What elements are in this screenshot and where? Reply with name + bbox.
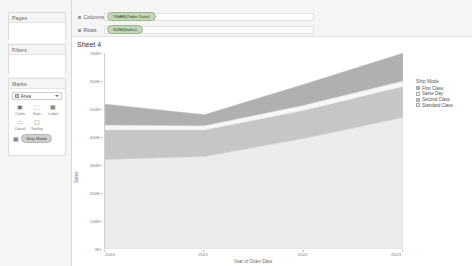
columns-shelf: Columns YEAR(Order Date) (78, 12, 314, 21)
marks-type-current: Area (15, 93, 31, 99)
y-tick-mark (100, 53, 102, 54)
chart-container: Sales 0K100K200K300K400K500K600K700K 202… (72, 53, 412, 266)
y-tick-label: 400K (90, 135, 100, 140)
rows-drop-zone[interactable]: SUM(Sales) (104, 26, 314, 34)
marks-shelf-pill-ship-mode[interactable]: Ship Mode (21, 134, 52, 143)
y-tick-mark (100, 109, 102, 110)
columns-shelf-label-text: Columns (84, 14, 104, 20)
filters-card: Filters (8, 44, 66, 74)
y-tick-label: 600K (90, 79, 100, 84)
y-tick-label: 500K (90, 107, 100, 112)
columns-bullet-icon (78, 16, 81, 19)
rows-bullet-icon (78, 29, 81, 32)
y-tick-label: 300K (90, 163, 100, 168)
pages-drop-zone[interactable] (9, 23, 65, 43)
legend-label-standard-class: Standard Class (422, 103, 453, 108)
marks-button-label-label: Label (48, 111, 58, 116)
filters-drop-zone[interactable] (9, 55, 65, 77)
x-tick-mark (104, 250, 105, 252)
marks-card: Marks Area ▣ Color ⬚ Size (8, 78, 66, 156)
legend-item-same-day[interactable]: Same Day (416, 91, 470, 96)
chevron-down-icon (55, 95, 59, 97)
x-tick-mark (402, 250, 403, 252)
page-title: Sheet 4 (77, 41, 101, 48)
y-tick-mark (100, 193, 102, 194)
filters-card-title: Filters (9, 45, 65, 55)
y-axis-title: Sales (74, 172, 79, 184)
x-tick-mark (303, 250, 304, 252)
rows-shelf-label: Rows (78, 27, 104, 33)
legend-item-standard-class[interactable]: Standard Class (416, 103, 470, 108)
color-shelf-icon: ▦ (13, 136, 19, 142)
marks-button-detail[interactable]: ∴ Detail (12, 117, 29, 132)
left-pane: Pages Filters Marks Area ▣ (0, 0, 72, 266)
y-tick-mark (100, 249, 102, 250)
marks-button-size[interactable]: ⬚ Size (29, 102, 46, 117)
tooltip-icon: ▢ (33, 119, 40, 126)
legend-title: Ship Mode (416, 79, 470, 84)
x-tick-label: 2022 (298, 252, 308, 257)
marks-button-label[interactable]: ▦ Label (45, 102, 62, 117)
marks-button-tooltip[interactable]: ▢ Tooltip (29, 117, 46, 132)
y-axis-ticks: 0K100K200K300K400K500K600K700K (80, 53, 102, 249)
x-axis-title: Year of Order Date (104, 259, 402, 264)
marks-button-size-label: Size (33, 111, 41, 116)
legend-swatch-same-day (416, 92, 420, 96)
x-tick-label: 2023 (391, 252, 401, 257)
area-chart-svg (105, 53, 403, 249)
marks-button-color[interactable]: ▣ Color (12, 102, 29, 117)
y-tick-label: 700K (90, 51, 100, 56)
legend-item-first-class[interactable]: First Class (416, 86, 470, 91)
y-tick-mark (100, 165, 102, 166)
marks-card-title: Marks (9, 79, 65, 89)
legend-label-first-class: First Class (422, 86, 443, 91)
size-icon: ⬚ (33, 104, 40, 111)
x-tick-label: 2021 (198, 252, 208, 257)
color-icon: ▣ (17, 104, 24, 111)
worksheet-view: Sheet 4 Sales 0K100K200K300K400K500K600K… (72, 36, 472, 266)
label-icon: ▦ (50, 104, 57, 111)
y-tick-label: 200K (90, 191, 100, 196)
rows-shelf-label-text: Rows (84, 27, 97, 33)
x-tick-label: 2020 (105, 252, 115, 257)
y-tick-label: 100K (90, 219, 100, 224)
y-tick-mark (100, 221, 102, 222)
rows-shelf: Rows SUM(Sales) (78, 25, 314, 34)
y-tick-mark (100, 81, 102, 82)
columns-drop-zone[interactable]: YEAR(Order Date) (104, 13, 314, 21)
marks-buttons: ▣ Color ⬚ Size ▦ Label ∴ Detail (9, 102, 65, 132)
y-tick-mark (100, 137, 102, 138)
area-mark-icon (15, 94, 19, 98)
legend-label-second-class: Second Class (422, 97, 450, 102)
pages-card-title: Pages (9, 13, 65, 23)
marks-type-label: Area (21, 93, 32, 99)
pages-card: Pages (8, 12, 66, 40)
color-legend: Ship Mode First Class Same Day Second Cl… (416, 79, 470, 109)
marks-button-detail-label: Detail (15, 126, 26, 131)
columns-pill-year-order-date[interactable]: YEAR(Order Date) (107, 12, 156, 21)
legend-swatch-first-class (416, 86, 420, 90)
detail-icon: ∴ (17, 119, 24, 126)
marks-type-dropdown[interactable]: Area (12, 92, 62, 100)
legend-swatch-standard-class (416, 103, 420, 107)
marks-button-tooltip-label: Tooltip (31, 126, 43, 131)
rows-pill-sum-sales[interactable]: SUM(Sales) (107, 25, 143, 34)
marks-color-shelf[interactable]: ▦ Ship Mode (9, 132, 65, 146)
stacked-area-chart[interactable] (104, 53, 402, 249)
legend-label-same-day: Same Day (422, 91, 443, 96)
legend-swatch-second-class (416, 98, 420, 102)
x-tick-mark (203, 250, 204, 252)
marks-button-color-label: Color (15, 111, 25, 116)
columns-shelf-label: Columns (78, 14, 104, 20)
legend-item-second-class[interactable]: Second Class (416, 97, 470, 102)
marks-card-body: Area ▣ Color ⬚ Size ▦ Label (9, 92, 65, 146)
tableau-worksheet: Pages Filters Marks Area ▣ (0, 0, 472, 266)
